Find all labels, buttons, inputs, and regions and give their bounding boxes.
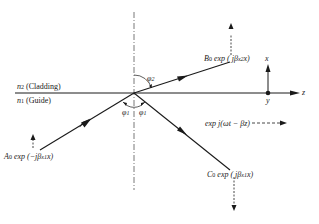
n1-subscript: 1 xyxy=(21,98,24,104)
phi1-left-subscript: 1 xyxy=(126,110,129,116)
cladding-label: n2 (Cladding) xyxy=(17,82,61,92)
refracted-expr-pre: exp ( jβ xyxy=(212,54,238,63)
reflected-arrow-icon xyxy=(177,127,187,136)
guide-name: (Guide) xyxy=(26,96,51,105)
z-axis-arrow-icon xyxy=(290,91,300,96)
refracted-arrow-icon xyxy=(177,76,188,82)
incident-expr-post: x) xyxy=(47,152,53,161)
guide-label: n1 (Guide) xyxy=(17,96,51,106)
reflected-wave-expression: C0 exp ( jβx1x) xyxy=(207,170,253,180)
phi2-subscript: 2 xyxy=(151,76,154,82)
phi1-right-label: φ1 xyxy=(139,108,146,118)
phi1-left-label: φ1 xyxy=(122,108,129,118)
phi2-label: φ2 xyxy=(147,74,154,84)
diagram-canvas xyxy=(0,0,319,224)
incident-wave-expression: A0 exp (−jβx1x) xyxy=(4,152,53,162)
phi1-right-subscript: 1 xyxy=(143,110,146,116)
incident-expr-pre: exp (−jβ xyxy=(12,152,41,161)
refracted-expr-post: x) xyxy=(244,54,250,63)
y-axis-label: y xyxy=(266,96,270,105)
z-axis-label: z xyxy=(302,88,305,97)
refracted-wave-expression: B0 exp ( jβx2x) xyxy=(204,54,250,64)
cladding-name: (Cladding) xyxy=(26,82,61,91)
x-axis-arrow-icon xyxy=(266,64,271,72)
reflected-expr-pre: exp ( jβ xyxy=(215,170,241,179)
n2-subscript: 2 xyxy=(21,84,24,90)
y-axis-dot-icon xyxy=(266,91,271,96)
reflected-expr-post: x) xyxy=(247,170,253,179)
propagation-expression: exp j(ωt − βz) xyxy=(205,119,250,128)
x-axis-label: x xyxy=(265,54,269,63)
